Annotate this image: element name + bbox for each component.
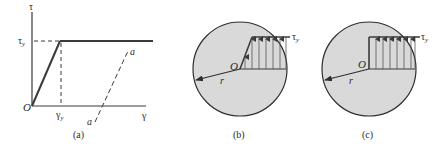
gamma-y-label: γy — [55, 109, 64, 122]
tau-y-label-c-sub: y — [424, 36, 429, 44]
panel-b-partially-plastic-section: O r τy (b) — [193, 22, 300, 141]
unload-label-bottom: a — [87, 116, 92, 127]
tau-y-label-b: τy — [292, 31, 300, 44]
caption-a: (a) — [73, 129, 84, 141]
unload-label-top: a — [130, 46, 135, 57]
tau-y-label-b-sub: y — [295, 36, 300, 44]
panel-a-stress-strain-graph: τ τy O γy γ a a (a) — [18, 1, 153, 141]
panel-c-fully-plastic-section: O r τy (c) — [322, 22, 429, 141]
caption-b: (b) — [233, 129, 245, 141]
caption-c: (c) — [362, 129, 373, 141]
origin-label-c: O — [358, 58, 366, 70]
elastic-line — [32, 41, 60, 106]
gamma-y-label-sub: y — [59, 114, 64, 122]
origin-label-b: O — [230, 60, 238, 72]
radius-label-b: r — [220, 75, 224, 86]
tau-y-label: τy — [18, 35, 26, 48]
gamma-axis-label: γ — [141, 110, 147, 121]
origin-label-a: O — [23, 101, 31, 113]
tau-y-label-sub: y — [21, 40, 26, 48]
radius-label-c: r — [349, 75, 353, 86]
tau-axis-label: τ — [29, 1, 33, 12]
stress-strain-figure: τ τy O γy γ a a (a) O r — [0, 0, 444, 147]
tau-y-label-c: τy — [421, 31, 429, 44]
unloading-line-a-a — [95, 51, 128, 122]
